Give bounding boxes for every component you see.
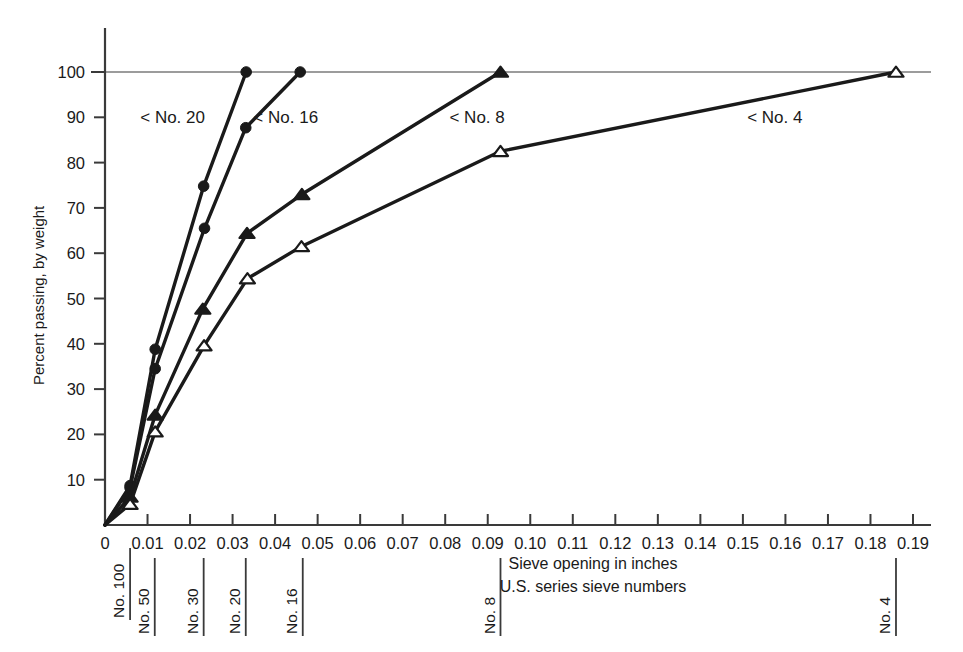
x-axis-tick-label: 0.17 bbox=[812, 534, 844, 552]
y-axis-tick-label: 40 bbox=[67, 335, 85, 353]
chart-caption-line: U.S. series sieve numbers bbox=[500, 578, 687, 595]
chart-background bbox=[0, 0, 963, 652]
x-axis-tick-label: 0.03 bbox=[217, 534, 249, 552]
x-axis-tick-label: 0.02 bbox=[174, 534, 206, 552]
data-point-marker bbox=[241, 67, 252, 78]
sieve-number-label: No. 4 bbox=[876, 597, 893, 634]
sieve-number-label: No. 20 bbox=[226, 588, 243, 634]
x-axis-tick-label: 0.09 bbox=[472, 534, 504, 552]
y-axis-tick-label: 20 bbox=[67, 425, 85, 443]
x-axis-tick-label: 0.16 bbox=[769, 534, 801, 552]
x-axis-tick-label: 0.08 bbox=[429, 534, 461, 552]
series-annotation-label: < No. 8 bbox=[449, 108, 504, 127]
x-axis-tick-label: 0.19 bbox=[897, 534, 929, 552]
x-axis-tick-label: 0.13 bbox=[642, 534, 674, 552]
x-axis-tick-label: 0.14 bbox=[684, 534, 716, 552]
data-point-marker bbox=[150, 344, 161, 355]
series-annotation-label: < No. 4 bbox=[747, 108, 802, 127]
x-axis-tick-label: 0.07 bbox=[387, 534, 419, 552]
sieve-number-label: No. 8 bbox=[481, 597, 498, 634]
series-annotation-label: < No. 16 bbox=[253, 108, 318, 127]
x-axis-tick-label: 0.06 bbox=[344, 534, 376, 552]
sieve-number-label: No. 30 bbox=[184, 588, 201, 634]
data-point-marker bbox=[198, 181, 209, 192]
series-annotation-label: < No. 20 bbox=[140, 108, 205, 127]
sieve-number-label: No. 100 bbox=[110, 563, 127, 618]
x-axis-tick-label: 0.15 bbox=[727, 534, 759, 552]
gradation-chart-figure: 102030405060708090100Percent passing, by… bbox=[0, 0, 963, 652]
y-axis-tick-label: 60 bbox=[67, 244, 85, 262]
y-axis-tick-label: 100 bbox=[57, 63, 85, 81]
y-axis-tick-label: 10 bbox=[67, 471, 85, 489]
data-point-marker bbox=[150, 363, 161, 374]
x-axis-tick-label: 0.01 bbox=[131, 534, 163, 552]
y-axis-tick-label: 90 bbox=[67, 108, 85, 126]
y-axis-tick-label: 70 bbox=[67, 199, 85, 217]
chart-caption-line: Sieve opening in inches bbox=[508, 555, 677, 572]
x-axis-tick-label: 0.10 bbox=[514, 534, 546, 552]
x-axis-tick-label: 0.12 bbox=[599, 534, 631, 552]
data-point-marker bbox=[199, 223, 210, 234]
sieve-number-label: No. 50 bbox=[135, 588, 152, 634]
x-axis-tick-label: 0.04 bbox=[259, 534, 291, 552]
x-axis-tick-label: 0.11 bbox=[557, 534, 588, 552]
sieve-gradation-chart: 102030405060708090100Percent passing, by… bbox=[0, 0, 963, 652]
x-axis-tick-label: 0.05 bbox=[302, 534, 334, 552]
x-axis-tick-label: 0 bbox=[100, 534, 109, 552]
y-axis-tick-label: 80 bbox=[67, 154, 85, 172]
y-axis-tick-label: 50 bbox=[67, 290, 85, 308]
y-axis-title: Percent passing, by weight bbox=[30, 205, 47, 385]
data-point-marker bbox=[295, 67, 306, 78]
y-axis-tick-label: 30 bbox=[67, 380, 85, 398]
x-axis-tick-label: 0.18 bbox=[854, 534, 886, 552]
sieve-number-label: No. 16 bbox=[283, 588, 300, 634]
data-point-marker bbox=[240, 122, 251, 133]
